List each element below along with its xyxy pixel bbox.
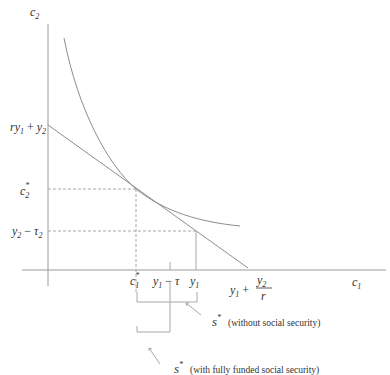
indifference-curve <box>64 38 240 226</box>
budget-line <box>48 125 248 268</box>
saving-bracket-without-ss <box>137 292 197 302</box>
annotation-without-ss: s* (without social security) <box>212 313 320 329</box>
arrow-icon <box>186 303 201 315</box>
x-intercept-label: y1 + y2 r <box>229 273 272 303</box>
svg-text:s*: s* <box>212 313 221 329</box>
c2-star-label: c2* <box>20 181 29 200</box>
annotation-with-ss: s* (with fully funded social security) <box>174 360 319 375</box>
x-axis-label: c1 <box>352 275 361 291</box>
consumption-diagram: c2 c1 ry1 + y2 c2* y2 − τ2 c1* y1 − τ y1… <box>0 0 390 375</box>
svg-text:y2: y2 <box>256 273 266 289</box>
svg-text:s*: s* <box>174 360 183 375</box>
y-axis-label: c2 <box>30 5 39 21</box>
arrow-icon <box>149 348 160 364</box>
svg-text:(with fully funded social secu: (with fully funded social security) <box>190 365 319 375</box>
saving-bracket-with-ss <box>137 326 170 332</box>
y2-minus-tau2-label: y2 − τ2 <box>11 224 42 240</box>
y1-minus-tau-label: y1 − τ <box>152 274 180 290</box>
y-intercept-label: ry1 + y2 <box>10 120 46 136</box>
c1-star-label: c1* <box>130 271 139 290</box>
svg-text:y1 +: y1 + <box>229 283 249 299</box>
svg-text:(without social security): (without social security) <box>228 318 320 329</box>
y1-label: y1 <box>189 274 199 290</box>
svg-text:r: r <box>261 289 266 303</box>
